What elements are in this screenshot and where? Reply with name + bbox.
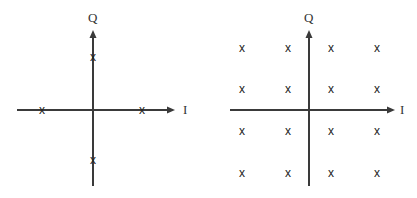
constellation-point-marker-icon: x [239,82,245,96]
constellation-point-marker-icon: x [90,153,96,167]
constellation-point-marker-icon: x [285,82,291,96]
constellation-point-marker-icon: x [374,166,380,180]
i-axis-label: I [183,102,187,117]
q-axis-label: Q [304,10,314,25]
constellation-point-marker-icon: x [285,166,291,180]
i-axis-label: I [400,102,404,117]
constellation-point-marker-icon: x [374,41,380,55]
constellation-point-marker-icon: x [139,103,145,117]
16qam-constellation: IQxxxxxxxxxxxxxxxx [230,10,404,186]
constellation-point-marker-icon: x [239,41,245,55]
i-axis-arrow-icon [387,107,395,114]
constellation-point-marker-icon: x [285,41,291,55]
q-axis-label: Q [88,10,98,25]
constellation-point-marker-icon: x [39,103,45,117]
qpsk-constellation: IQxxxx [17,10,187,186]
constellation-point-marker-icon: x [90,50,96,64]
q-axis-arrow-icon [306,30,313,38]
constellation-point-marker-icon: x [285,124,291,138]
q-axis-arrow-icon [90,30,97,38]
constellation-point-marker-icon: x [328,82,334,96]
constellation-point-marker-icon: x [328,41,334,55]
constellation-point-marker-icon: x [328,166,334,180]
constellation-point-marker-icon: x [374,124,380,138]
constellation-diagrams: IQxxxx IQxxxxxxxxxxxxxxxx [0,0,417,198]
constellation-point-marker-icon: x [328,124,334,138]
constellation-point-marker-icon: x [374,82,380,96]
constellation-point-marker-icon: x [239,166,245,180]
constellation-point-marker-icon: x [239,124,245,138]
i-axis-arrow-icon [167,107,175,114]
